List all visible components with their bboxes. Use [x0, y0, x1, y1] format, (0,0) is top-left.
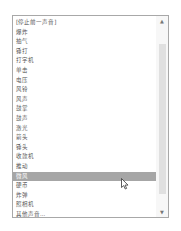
list-item[interactable]: 激光 — [13, 124, 157, 134]
list-item[interactable]: 单击 — [13, 66, 157, 76]
list-item[interactable]: 照相机 — [13, 200, 157, 210]
list-item[interactable]: [停止前一声音] — [13, 18, 157, 28]
list-item[interactable]: 箭头 — [13, 133, 157, 143]
list-item-selected[interactable]: 微风 — [13, 172, 157, 182]
scroll-up-icon[interactable]: ▲ — [156, 16, 168, 26]
scroll-down-icon[interactable]: ▼ — [156, 207, 168, 217]
list-item[interactable]: 硬币 — [13, 181, 157, 191]
mouse-cursor-icon — [121, 178, 129, 190]
scrollbar-thumb[interactable] — [159, 44, 166, 194]
list-item[interactable]: 鼓声 — [13, 114, 157, 124]
list-item[interactable]: 电压 — [13, 76, 157, 86]
list-item[interactable]: 其他声音... — [13, 210, 157, 218]
list-item[interactable]: 锤头 — [13, 143, 157, 153]
list-item[interactable]: 收款机 — [13, 152, 157, 162]
list-item[interactable]: 爆炸 — [13, 28, 157, 38]
list-item[interactable]: 炸弹 — [13, 191, 157, 201]
sound-list-items: [停止前一声音] 爆炸 抽气 锤打 打字机 单击 电压 风铃 风声 鼓掌 鼓声 … — [13, 18, 157, 218]
list-item[interactable]: 鼓掌 — [13, 104, 157, 114]
sound-listbox[interactable]: [停止前一声音] 爆炸 抽气 锤打 打字机 单击 电压 风铃 风声 鼓掌 鼓声 … — [12, 15, 169, 218]
list-item[interactable]: 风铃 — [13, 85, 157, 95]
list-item[interactable]: 锤打 — [13, 47, 157, 57]
list-item[interactable]: 抽气 — [13, 37, 157, 47]
list-item[interactable]: 风声 — [13, 95, 157, 105]
list-item[interactable]: 打字机 — [13, 56, 157, 66]
vertical-scrollbar[interactable]: ▲ ▼ — [156, 16, 168, 217]
list-item[interactable]: 推动 — [13, 162, 157, 172]
